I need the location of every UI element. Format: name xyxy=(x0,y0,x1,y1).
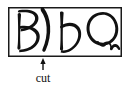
cut-caption: cut xyxy=(36,71,51,85)
figure-container: cut xyxy=(0,0,130,87)
figure-svg: cut xyxy=(0,0,130,87)
